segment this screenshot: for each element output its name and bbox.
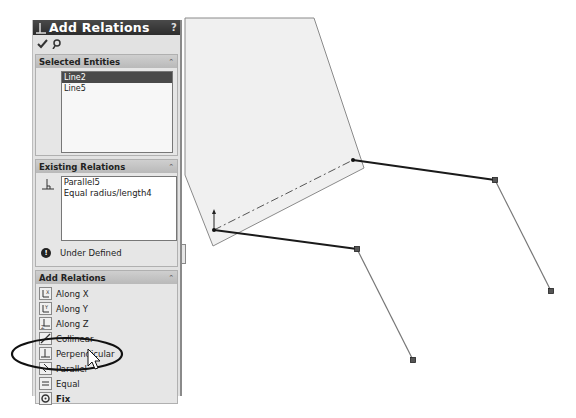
along-z-icon: Z <box>39 317 52 330</box>
endpoint[interactable] <box>212 228 216 232</box>
list-item[interactable]: Line5 <box>62 83 172 94</box>
sketch-line-upper-horizontal[interactable] <box>353 160 495 180</box>
svg-text:X: X <box>46 289 50 295</box>
selected-entities-section: Selected Entities ⌃ Line2 Line5 <box>35 54 178 156</box>
relation-fix[interactable]: Fix <box>36 391 177 406</box>
relation-along-x[interactable]: X Along X <box>36 286 177 301</box>
endpoint[interactable] <box>549 289 554 294</box>
selected-entities-header[interactable]: Selected Entities ⌃ <box>36 55 177 68</box>
parallel-icon <box>39 362 52 375</box>
along-y-icon: Y <box>39 302 52 315</box>
panel-splitter-handle[interactable] <box>181 244 186 264</box>
existing-relations-header[interactable]: Existing Relations ⌃ <box>36 160 177 173</box>
collinear-icon <box>39 332 52 345</box>
add-relations-header[interactable]: Add Relations ⌃ <box>36 271 177 284</box>
endpoint[interactable] <box>355 247 360 252</box>
list-item[interactable]: Line2 <box>62 72 172 83</box>
endpoint[interactable] <box>351 158 355 162</box>
info-icon: ! <box>41 248 51 258</box>
existing-relations-list[interactable]: Parallel5 Equal radius/length4 <box>61 176 177 241</box>
add-relations-section: Add Relations ⌃ X Along X Y Along Y Z Al… <box>35 270 178 404</box>
existing-relations-section: Existing Relations ⌃ Parallel5 Equal rad… <box>35 159 178 267</box>
relation-along-z[interactable]: Z Along Z <box>36 316 177 331</box>
list-item[interactable]: Parallel5 <box>62 177 176 188</box>
relation-parallel[interactable]: Parallel <box>36 361 177 376</box>
relation-along-y[interactable]: Y Along Y <box>36 301 177 316</box>
relation-equal[interactable]: Equal <box>36 376 177 391</box>
help-button[interactable]: ? <box>171 22 177 33</box>
perpendicular-icon <box>39 347 52 360</box>
endpoint[interactable] <box>411 358 416 363</box>
list-item[interactable]: Equal radius/length4 <box>62 188 176 199</box>
endpoint[interactable] <box>493 178 498 183</box>
sketch-line-lower-diagonal[interactable] <box>357 249 413 360</box>
sketch-plane <box>185 18 364 246</box>
property-manager-panel: Add Relations ? Selected Entities ⌃ Line… <box>32 20 182 396</box>
fix-icon <box>39 392 52 405</box>
equal-icon <box>39 377 52 390</box>
sketch-line-lower-horizontal[interactable] <box>214 230 357 249</box>
add-relation-icon <box>36 22 46 34</box>
svg-text:Z: Z <box>41 324 45 329</box>
selected-entities-list[interactable]: Line2 Line5 <box>61 71 173 153</box>
sketch-line-upper-diagonal[interactable] <box>495 180 551 291</box>
panel-title: Add Relations <box>49 20 150 35</box>
collapse-chevron-icon[interactable]: ⌃ <box>168 58 174 66</box>
collapse-chevron-icon[interactable]: ⌃ <box>168 163 174 171</box>
pushpin-icon[interactable] <box>52 34 62 53</box>
panel-toolbar <box>33 35 180 51</box>
status-text: Under Defined <box>60 248 122 258</box>
relation-type-icon <box>36 176 61 241</box>
relation-collinear[interactable]: Collinear <box>36 331 177 346</box>
svg-text:Y: Y <box>44 304 49 310</box>
relation-perpendicular[interactable]: Perpendicular <box>36 346 177 361</box>
along-x-icon: X <box>39 287 52 300</box>
collapse-chevron-icon[interactable]: ⌃ <box>168 274 174 282</box>
checkmark-icon[interactable] <box>37 34 48 53</box>
